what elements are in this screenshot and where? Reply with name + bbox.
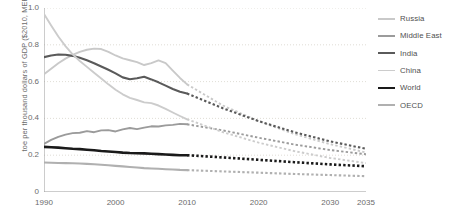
x-tick-label: 1990 [24, 199, 64, 207]
series-projection-india [187, 94, 366, 149]
series-line-middle-east [44, 124, 187, 144]
series-projection-oecd [187, 170, 366, 176]
legend-label: Russia [400, 14, 424, 23]
x-tick-label: 2030 [310, 199, 350, 207]
series-projection-world [187, 155, 366, 166]
chart-legend: RussiaMiddle EastIndiaChinaWorldOECD [378, 10, 458, 114]
legend-swatch-icon [378, 104, 395, 106]
legend-label: China [400, 66, 421, 75]
series-line-oecd [44, 163, 187, 171]
y-tick-label: 0.4 [13, 114, 39, 122]
series-projection-china [187, 119, 366, 163]
legend-item-china[interactable]: China [378, 62, 458, 79]
legend-item-india[interactable]: India [378, 45, 458, 62]
series-line-china [44, 14, 187, 119]
legend-swatch-icon [378, 52, 395, 54]
x-tick-label: 2035 [346, 199, 386, 207]
legend-item-oecd[interactable]: OECD [378, 96, 458, 113]
gridlines [44, 8, 366, 155]
plot-area: 00.20.40.60.81.0 19902000201020202030203… [44, 8, 366, 192]
y-tick-label: 0 [13, 188, 39, 196]
y-tick-label: 0.6 [13, 78, 39, 86]
y-tick-label: 1.0 [13, 4, 39, 12]
legend-item-middle-east[interactable]: Middle East [378, 27, 458, 44]
series-lines [44, 14, 366, 176]
series-line-india [44, 55, 187, 94]
legend-swatch-icon [378, 87, 395, 90]
legend-label: OECD [400, 101, 423, 110]
legend-item-russia[interactable]: Russia [378, 10, 458, 27]
legend-label: India [400, 49, 417, 58]
legend-swatch-icon [378, 70, 395, 72]
legend-swatch-icon [378, 35, 395, 37]
x-tick-label: 2020 [239, 199, 279, 207]
series-line-world [44, 147, 187, 155]
legend-item-world[interactable]: World [378, 79, 458, 96]
x-tick-label: 2010 [167, 199, 207, 207]
chart-canvas [44, 8, 366, 192]
y-tick-label: 0.8 [13, 41, 39, 49]
series-projection-russia [187, 84, 366, 152]
legend-label: World [400, 83, 421, 92]
legend-swatch-icon [378, 18, 395, 20]
legend-label: Middle East [400, 31, 442, 40]
chart-figure: toe per thousand dollars of GDP ($2010, … [0, 0, 458, 216]
y-tick-label: 0.2 [13, 151, 39, 159]
x-tick-label: 2000 [96, 199, 136, 207]
